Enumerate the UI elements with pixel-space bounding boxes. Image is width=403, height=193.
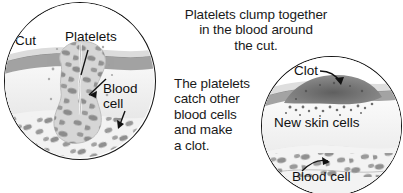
panel-clot-healing: Clot New skin cells Blood cell (261, 56, 402, 193)
label-clot: Clot (294, 63, 318, 78)
label-cut: Cut (15, 33, 36, 48)
caption-platelets-clump: Platelets clump together in the blood ar… (172, 7, 340, 53)
caption-platelets-catch: The platelets catch other blood cells an… (174, 76, 270, 153)
panel-platelet-plug: Cut Platelets Blood cell (4, 2, 156, 160)
label-blood-cell-right: Blood cell (292, 169, 351, 184)
label-blood-cell-left: Blood cell (103, 81, 155, 111)
label-new-skin-cells: New skin cells (274, 115, 360, 130)
label-platelets: Platelets (65, 29, 117, 44)
blood-clotting-figure: Platelets clump together in the blood ar… (0, 0, 403, 193)
